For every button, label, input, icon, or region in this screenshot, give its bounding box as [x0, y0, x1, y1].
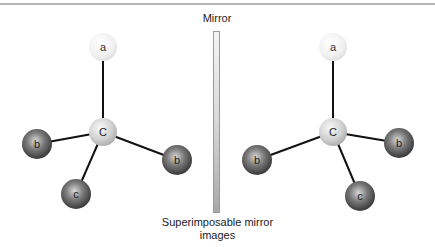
svg-text:b: b	[396, 137, 402, 149]
svg-text:c: c	[357, 190, 363, 202]
right-molecule: a C b b c	[242, 33, 414, 211]
svg-text:a: a	[100, 41, 107, 53]
left-molecule: a C b b c	[22, 33, 192, 209]
mirror-label: Mirror	[197, 12, 237, 24]
atom-b-right: b	[162, 145, 192, 175]
svg-text:b: b	[174, 154, 180, 166]
mirror-bar	[213, 31, 220, 213]
atom-b-left: b	[242, 145, 272, 175]
atom-center-c: C	[89, 118, 117, 146]
svg-text:c: c	[73, 188, 79, 200]
svg-text:C: C	[329, 126, 337, 138]
atom-center-c: C	[319, 118, 347, 146]
caption: Superimposable mirror images	[130, 216, 305, 242]
atom-b-right: b	[384, 128, 414, 158]
svg-text:b: b	[254, 154, 260, 166]
caption-line-2: images	[130, 229, 305, 242]
svg-text:a: a	[330, 41, 337, 53]
atom-a: a	[89, 33, 117, 61]
atom-a: a	[319, 33, 347, 61]
atom-c: c	[345, 181, 375, 211]
atom-c: c	[61, 179, 91, 209]
svg-text:C: C	[99, 126, 107, 138]
atom-b-left: b	[22, 129, 52, 159]
caption-line-1: Superimposable mirror	[130, 216, 305, 229]
svg-text:b: b	[34, 138, 40, 150]
